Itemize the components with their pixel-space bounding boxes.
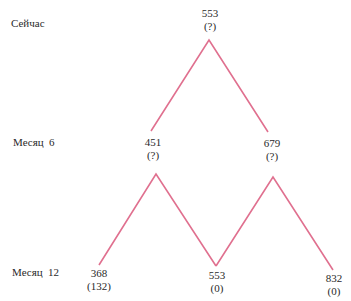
node-sub: (132) <box>84 280 114 293</box>
node-m12-low: 368 (132) <box>84 267 114 293</box>
row-label-month-12: Месяц 12 <box>12 266 59 278</box>
node-m6-high: 679 (?) <box>258 137 286 163</box>
row-label-month-6: Месяц 6 <box>13 136 55 148</box>
node-sub: (?) <box>196 20 224 33</box>
node-sub: (?) <box>258 150 286 163</box>
node-value: 553 <box>196 7 224 20</box>
node-value: 553 <box>203 269 231 282</box>
node-value: 368 <box>84 267 114 280</box>
node-m12-mid: 553 (0) <box>203 269 231 295</box>
node-value: 832 <box>320 272 348 285</box>
node-m6-low: 451 (?) <box>139 136 167 162</box>
row-label-now: Сейчас <box>11 17 45 29</box>
node-sub: (0) <box>320 285 348 298</box>
branch-m6-high <box>216 177 333 270</box>
branch-m6-low <box>99 174 216 266</box>
node-sub: (?) <box>139 149 167 162</box>
node-value: 679 <box>258 137 286 150</box>
tree-lines <box>0 0 351 301</box>
node-sub: (0) <box>203 282 231 295</box>
node-m12-high: 832 (0) <box>320 272 348 298</box>
branch-now <box>151 40 268 132</box>
node-value: 451 <box>139 136 167 149</box>
node-now: 553 (?) <box>196 7 224 33</box>
